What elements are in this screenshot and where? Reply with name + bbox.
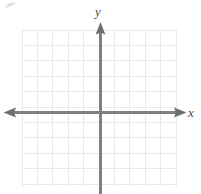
coordinate-plane-figure: y x [0,0,201,194]
grid-lines [22,30,176,186]
x-axis-label: x [188,106,194,119]
scan-artifact [4,1,18,9]
coordinate-grid-svg [0,0,201,194]
y-axis-label: y [95,5,101,18]
x-axis [4,108,187,118]
